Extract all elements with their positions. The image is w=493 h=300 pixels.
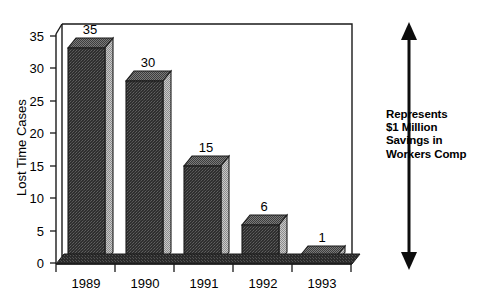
bar-1991: [184, 156, 229, 262]
plot-area-svg: [0, 0, 370, 300]
y-tick-label-35: 35: [18, 30, 44, 43]
floor-band: [56, 254, 360, 264]
x-tick-label-1992: 1992: [235, 277, 291, 290]
callout-line-1: Represents: [386, 108, 490, 121]
bar-value-1992: 6: [244, 200, 284, 213]
x-tick-label-1993: 1993: [294, 277, 350, 290]
x-tick-marks: [56, 264, 351, 272]
bar-value-1989: 35: [70, 23, 110, 36]
callout-line-4: Workers Comp: [386, 148, 490, 161]
chart-screenshot: 35 30 25 20 15 10 5 0 Lost Time Cases 19…: [0, 0, 493, 300]
y-tick-label-0: 0: [18, 257, 44, 270]
x-tick-label-1990: 1990: [117, 277, 173, 290]
callout-line-3: Savings in: [386, 134, 490, 147]
savings-callout: Represents $1 Million Savings in Workers…: [386, 108, 490, 161]
y-tick-label-30: 30: [18, 62, 44, 75]
bar-1990: [126, 71, 171, 262]
bar-chart: 35 30 25 20 15 10 5 0 Lost Time Cases 19…: [0, 0, 370, 300]
bar-1989: [68, 38, 113, 262]
y-axis-title: Lost Time Cases: [14, 99, 29, 196]
x-tick-label-1989: 1989: [58, 277, 114, 290]
depth-connector-top: [56, 24, 62, 34]
bar-value-1991: 15: [186, 141, 226, 154]
y-tick-marks: [50, 36, 56, 263]
y-tick-label-5: 5: [18, 225, 44, 238]
bar-value-1990: 30: [128, 56, 168, 69]
callout-line-2: $1 Million: [386, 121, 490, 134]
x-tick-label-1991: 1991: [176, 277, 232, 290]
bar-value-1993: 1: [302, 231, 342, 244]
